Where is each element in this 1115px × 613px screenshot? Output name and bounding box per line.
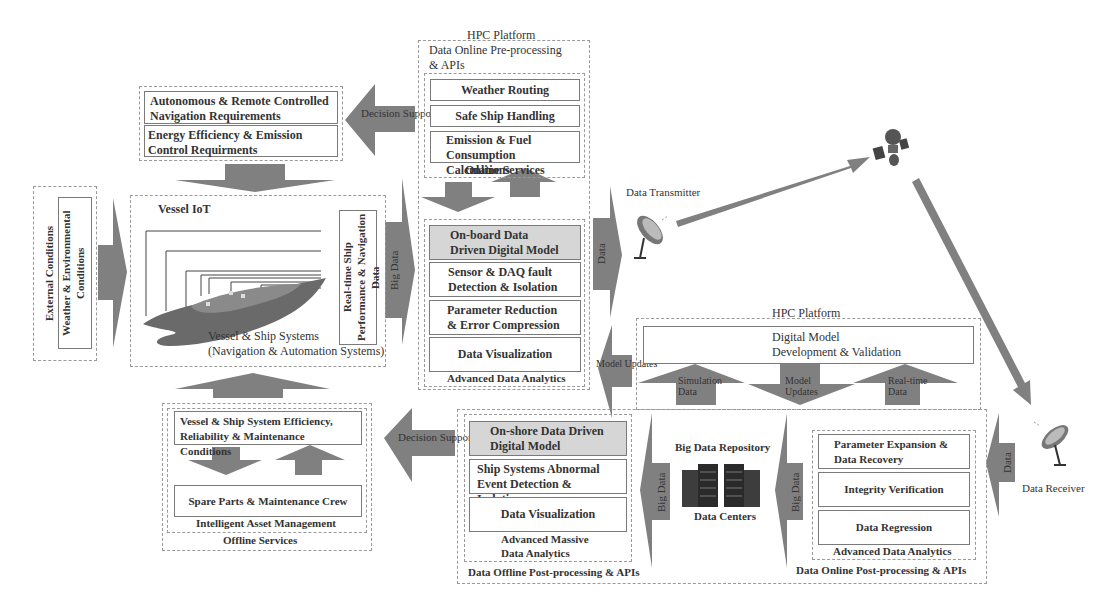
advanced-analytics-group: On-board Data Driven Digital Model Senso… — [424, 219, 585, 387]
parameter-reduction-box: Parameter Reduction & Error Compression — [429, 300, 581, 335]
requirement-nav: Autonomous & Remote Controlled Navigatio… — [144, 91, 338, 124]
sensor-daq-fault-box: Sensor & DAQ fault Detection & Isolation — [429, 262, 581, 297]
vessel-group: Vessel IoT Vessel & Ship Systems (Naviga… — [130, 195, 386, 367]
big-data-label-3: Big Data — [787, 466, 803, 518]
online-postprocessing-inner: Parameter Expansion & Data Recovery Inte… — [812, 430, 976, 560]
requirement-energy: Energy Efficiency & Emission Control Req… — [144, 125, 338, 157]
offline-services-group: Vessel & Ship System Efficiency, Reliabi… — [162, 403, 372, 551]
realtime-data-label-arrow: Real-time Data — [888, 375, 928, 397]
efficiency-reliability-box: Vessel & Ship System Efficiency, Reliabi… — [174, 411, 362, 445]
massive-analytics-group: On-shore Data Driven Digital Model Ship … — [464, 414, 632, 562]
data-centers-icon — [680, 462, 765, 508]
data-rx-label: Data — [999, 446, 1015, 480]
weather-conditions-label: Weather & Environmental Conditions — [59, 198, 91, 348]
integrity-verification-box: Integrity Verification — [818, 472, 970, 507]
vessel-systems-label-2: (Navigation & Automation Systems) — [208, 344, 384, 359]
service-weather-routing: Weather Routing — [430, 79, 580, 101]
onboard-hpc-subtitle-1: Data Online Pre-processing — [429, 43, 562, 58]
big-data-repository-title: Big Data Repository — [675, 441, 770, 453]
data-regression-box: Data Regression — [818, 510, 970, 545]
digital-model-dev-box: Digital Model Development & Validation — [643, 326, 974, 364]
data-tx-label: Data — [593, 222, 609, 286]
weather-conditions-box: Weather & Environmental Conditions — [58, 197, 92, 349]
abnormal-event-box: Ship Systems Abnormal Event Detection & … — [469, 459, 627, 494]
parameter-expansion-box: Parameter Expansion & Data Recovery — [818, 434, 970, 469]
data-visualization-box-offline: Data Visualization — [469, 497, 627, 532]
massive-analytics-label-2: Data Analytics — [501, 547, 570, 559]
offline-postprocessing-label: Data Offline Post-processing & APIs — [468, 566, 640, 578]
external-conditions-group: External Conditions Weather & Environmen… — [33, 186, 97, 361]
online-services-group: Weather Routing Safe Ship Handling Emiss… — [424, 73, 585, 178]
digital-model-dev-line1: Digital Model — [772, 330, 973, 345]
data-visualization-box-onboard: Data Visualization — [429, 337, 581, 372]
external-to-vessel-arrow — [98, 198, 127, 348]
service-safe-ship-handling: Safe Ship Handling — [430, 105, 580, 127]
big-data-label-1: Big Data — [386, 228, 402, 312]
receiver-dish-icon — [1030, 420, 1080, 470]
realtime-data-label: Real-time Ship Performance & Navigation … — [340, 211, 376, 344]
data-transmitter-label: Data Transmitter — [626, 186, 700, 198]
data-centers-label: Data Centers — [694, 510, 756, 522]
simulation-data-label: Simulation Data — [678, 375, 728, 397]
onboard-hpc-subtitle-2: & APIs — [429, 58, 465, 73]
offline-services-label: Offline Services — [223, 534, 297, 546]
advanced-analytics-label-onboard: Advanced Data Analytics — [447, 372, 566, 384]
external-conditions-label: External Conditions — [38, 187, 60, 360]
realtime-data-box: Real-time Ship Performance & Navigation … — [339, 210, 377, 345]
online-postprocessing-label: Data Online Post-processing & APIs — [796, 564, 966, 576]
model-updates-arrow-left — [598, 325, 632, 418]
satellite-icon — [872, 125, 912, 170]
massive-analytics-label-1: Advanced Massive — [501, 533, 589, 545]
requirements-group: Autonomous & Remote Controlled Navigatio… — [139, 86, 343, 161]
transmitter-dish-icon — [628, 212, 678, 262]
up-arrow-offline-to-vessel — [175, 373, 330, 398]
service-emission-fuel: Emission & Fuel Consumption Calculations — [430, 131, 580, 163]
model-updates-label-mid: Model Updates — [785, 375, 825, 397]
onboard-hpc-group: Data Online Pre-processing & APIs Weathe… — [418, 40, 590, 390]
data-receiver-label: Data Receiver — [1022, 482, 1085, 494]
intelligent-asset-group: Vessel & Ship System Efficiency, Reliabi… — [167, 408, 367, 533]
decision-supporting-arrow-bottom — [384, 408, 455, 482]
onboard-digital-model-box: On-board Data Driven Digital Model — [429, 225, 581, 260]
vessel-systems-label-1: Vessel & Ship Systems — [208, 329, 319, 344]
digital-model-dev-line2: Development & Validation — [772, 345, 973, 360]
uplink-arrow — [676, 157, 870, 227]
intelligent-asset-label: Intelligent Asset Management — [196, 517, 336, 529]
decision-supporting-arrow-top — [345, 84, 415, 156]
online-services-label: Online Services — [465, 163, 545, 178]
spare-parts-box: Spare Parts & Maintenance Crew — [174, 485, 362, 517]
down-arrow-requirements — [175, 164, 335, 192]
advanced-analytics-label-online: Advanced Data Analytics — [833, 545, 952, 557]
big-data-label-2: Big Data — [653, 466, 669, 518]
onshore-digital-model-box: On-shore Data Driven Digital Model — [469, 421, 627, 456]
